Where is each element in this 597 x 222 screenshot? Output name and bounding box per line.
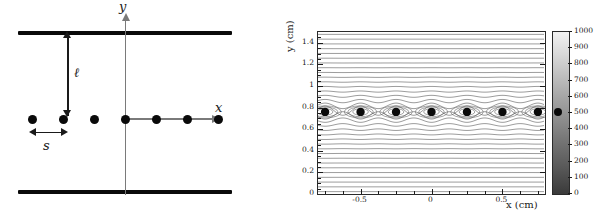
y-axis-minor-tick [318, 75, 321, 76]
colorbar-tick [568, 177, 572, 178]
plate-gap-measure-line [67, 34, 69, 116]
x-axis-minor-tick [343, 191, 344, 194]
y-axis-label: y [119, 0, 126, 14]
y-axis-minor-tick [318, 118, 321, 119]
plot-charge-markers [318, 32, 545, 194]
plot-charge-dot [534, 108, 542, 116]
plot-area [317, 31, 546, 195]
y-axis-tick-label: 0.4 [290, 146, 314, 154]
charge-spacing-arrowhead-left-icon [29, 128, 36, 136]
y-axis-minor-tick [318, 183, 321, 184]
y-axis-tick [318, 64, 323, 65]
y-axis-tick [318, 194, 323, 195]
colorbar-tick-label: 0 [574, 189, 579, 197]
y-axis-minor-tick [318, 156, 321, 157]
x-axis-tick [502, 189, 503, 194]
colorbar-tick [568, 80, 572, 81]
x-axis-minor-tick [485, 191, 486, 194]
colorbar-tick-label: 100 [574, 173, 588, 181]
y-axis-minor-tick [318, 178, 321, 179]
y-axis-tick [318, 108, 323, 109]
y-axis-tick [318, 172, 323, 173]
y-axis-minor-tick [318, 59, 321, 60]
x-axis-minor-tick [467, 191, 468, 194]
x-axis-minor-tick [378, 191, 379, 194]
y-axis-tick [540, 86, 545, 87]
y-axis-minor-tick [318, 102, 321, 103]
colorbar-tick [568, 96, 572, 97]
x-axis-minor-tick [414, 191, 415, 194]
y-axis-minor-tick [318, 140, 321, 141]
y-axis-minor-tick [318, 81, 321, 82]
y-axis-title: y (cm) [284, 20, 295, 52]
plate-gap-arrowhead-down-icon [63, 110, 71, 117]
charge-dot [214, 115, 223, 124]
figure-container: y x ℓ s 00.20.40.60.811.2 [0, 0, 597, 222]
y-axis-minor-tick [318, 135, 321, 136]
charge-spacing-arrowhead-right-icon [61, 128, 68, 136]
y-axis-line [125, 20, 126, 195]
colorbar-tick [568, 128, 572, 129]
y-axis-minor-tick [318, 70, 321, 71]
colorbar-tick-label: 1000 [574, 27, 593, 35]
plot-charge-dot [356, 108, 364, 116]
charge-dot [183, 115, 192, 124]
plot-charge-dot [463, 108, 471, 116]
y-axis-tick [540, 172, 545, 173]
y-axis-tick-label: 0 [290, 189, 314, 197]
x-axis-line [125, 118, 213, 119]
plate-gap-arrowhead-up-icon [63, 31, 71, 38]
y-axis-minor-tick [318, 91, 321, 92]
contour-plot-panel: 00.20.40.60.811.21.4 -0.500.5 y (cm) x (… [290, 0, 597, 222]
colorbar-tick-label: 800 [574, 59, 588, 67]
colorbar-tick-label: 400 [574, 124, 588, 132]
plot-charge-dot [321, 108, 329, 116]
y-axis-tick [318, 129, 323, 130]
colorbar-tick-label: 900 [574, 43, 588, 51]
y-axis-minor-tick [318, 189, 321, 190]
y-axis-arrowhead-icon [122, 13, 130, 21]
colorbar-tick [568, 144, 572, 145]
y-axis-tick-label: 0.6 [290, 124, 314, 132]
colorbar-tick [568, 112, 572, 113]
y-axis-tick [540, 194, 545, 195]
y-axis-minor-tick [318, 37, 321, 38]
y-axis-tick-label: 1.2 [290, 59, 314, 67]
colorbar-value-marker [554, 108, 562, 116]
plate-gap-label: ℓ [74, 65, 79, 81]
x-axis-label: x [215, 100, 222, 115]
y-axis-minor-tick [318, 113, 321, 114]
y-axis-tick-label: 1 [290, 81, 314, 89]
colorbar-tick [568, 161, 572, 162]
colorbar-tick-label: 600 [574, 92, 588, 100]
y-axis-tick-label: 0.2 [290, 167, 314, 175]
y-axis-tick [318, 151, 323, 152]
y-axis-tick [540, 108, 545, 109]
plot-charge-dot [498, 108, 506, 116]
x-axis-tick-label: -0.5 [345, 196, 375, 204]
colorbar-tick-label: 300 [574, 140, 588, 148]
x-axis-minor-tick [520, 191, 521, 194]
charge-spacing-measure-line [35, 132, 62, 134]
colorbar-tick [568, 63, 572, 64]
y-axis-tick [540, 64, 545, 65]
x-axis-minor-tick [396, 191, 397, 194]
plot-charge-dot [392, 108, 400, 116]
x-axis-tick [361, 189, 362, 194]
y-axis-minor-tick [318, 48, 321, 49]
charge-dot [152, 115, 161, 124]
charge-dot [121, 115, 130, 124]
y-axis-minor-tick [318, 97, 321, 98]
y-axis-minor-tick [318, 167, 321, 168]
x-axis-title: x (cm) [506, 199, 538, 210]
y-axis-tick [318, 86, 323, 87]
y-axis-minor-tick [318, 54, 321, 55]
y-axis-tick-label: 0.8 [290, 103, 314, 111]
x-axis-tick-label: 0 [416, 196, 446, 204]
colorbar-tick [568, 31, 572, 32]
charge-dot [28, 115, 37, 124]
y-axis-tick [540, 129, 545, 130]
colorbar-tick [568, 193, 572, 194]
y-axis-tick [540, 151, 545, 152]
x-axis-tick [432, 189, 433, 194]
